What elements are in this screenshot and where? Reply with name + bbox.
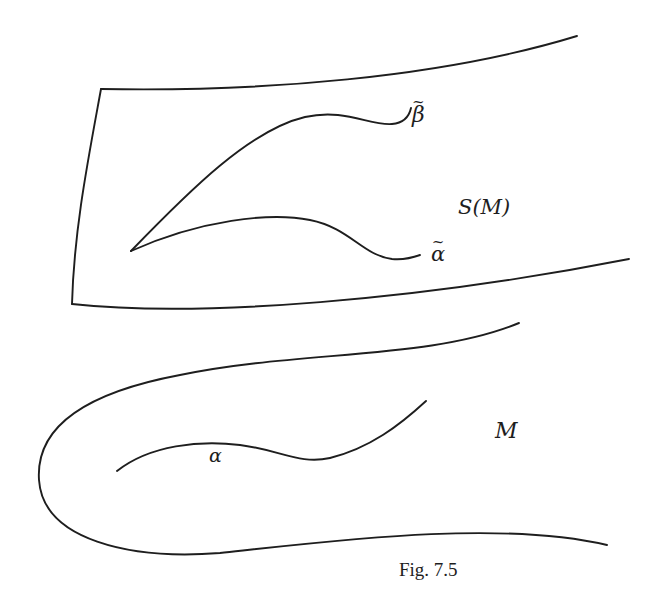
beta-tilde-curve	[131, 108, 411, 251]
surface-boundary-left	[72, 89, 101, 304]
alpha-label: α	[209, 446, 222, 465]
tilde-mark: ~	[412, 95, 425, 110]
surface-boundary-bottom	[72, 259, 629, 309]
manifold-label: M	[495, 420, 518, 442]
alpha-tilde-curve	[131, 217, 420, 259]
beta-tilde-label: ~ β	[412, 104, 425, 126]
surface-label: S(M)	[458, 197, 510, 218]
figure-canvas: ~ β S(M) ~ α α M Fig. 7.5	[0, 0, 660, 614]
surface-boundary-top	[101, 36, 577, 89]
manifold-boundary	[39, 323, 607, 554]
alpha-tilde-label: ~ α	[431, 244, 445, 265]
tilde-mark: ~	[432, 235, 445, 250]
alpha-curve	[117, 401, 426, 471]
figure-caption: Fig. 7.5	[399, 560, 458, 579]
figure-drawing	[0, 0, 660, 614]
